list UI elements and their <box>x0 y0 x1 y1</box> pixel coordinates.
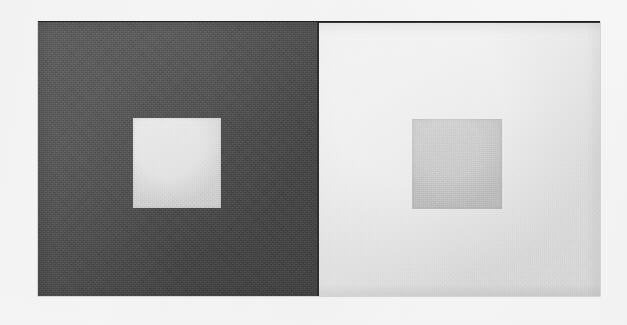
inner-square-on-light-edge <box>412 119 502 209</box>
light-surround-panel <box>319 22 600 296</box>
dark-surround-panel <box>38 22 319 296</box>
figure-root <box>0 0 627 325</box>
contrast-plate <box>38 22 600 296</box>
inner-square-on-light <box>412 119 502 209</box>
inner-square-on-dark-edge <box>133 118 221 208</box>
inner-square-on-dark <box>133 118 221 208</box>
